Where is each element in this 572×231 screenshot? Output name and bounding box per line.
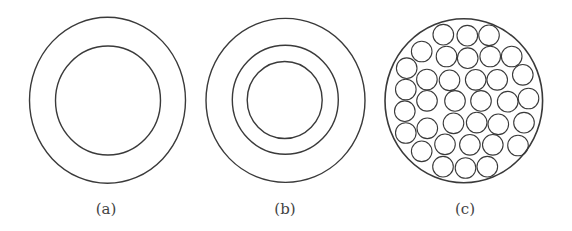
small-circle	[436, 46, 457, 67]
small-circle	[460, 135, 481, 156]
small-circle	[514, 112, 535, 133]
small-circle	[435, 134, 456, 155]
panel-a-concentric-two	[30, 17, 186, 183]
small-circle	[396, 58, 417, 79]
small-circle	[455, 158, 476, 179]
small-circle	[411, 141, 432, 162]
panel-b-concentric-three	[206, 18, 365, 182]
panel-label-c: (c)	[445, 199, 485, 219]
figure-canvas	[0, 0, 572, 231]
small-circle	[433, 156, 454, 177]
ring-1	[206, 18, 365, 182]
small-circle	[443, 113, 464, 134]
small-circle	[466, 112, 487, 133]
small-circle	[483, 135, 504, 156]
small-circle	[501, 46, 522, 67]
small-circle	[513, 65, 534, 86]
small-circle	[471, 91, 492, 112]
small-circle	[497, 91, 518, 112]
panel-label-a: (a)	[86, 199, 126, 219]
small-circle	[417, 91, 438, 112]
small-circle	[479, 25, 500, 46]
small-circle	[433, 24, 454, 45]
small-circle	[445, 91, 466, 112]
small-circle	[457, 25, 478, 46]
small-circle	[417, 69, 438, 90]
small-circle	[396, 123, 417, 144]
ring-3	[247, 62, 322, 139]
small-circle	[457, 48, 478, 69]
small-circle	[417, 118, 438, 139]
small-circle	[396, 79, 417, 100]
ring-2	[56, 46, 161, 155]
small-circle	[488, 114, 509, 135]
small-circle	[439, 70, 460, 91]
panel-label-b: (b)	[265, 199, 305, 219]
small-circle	[518, 88, 539, 109]
panel-c-packed-circles	[385, 19, 543, 183]
small-circle	[508, 135, 529, 156]
small-circle	[411, 41, 432, 62]
ring-1	[30, 17, 186, 183]
small-circle	[465, 70, 486, 91]
small-circle	[477, 156, 498, 177]
small-circle	[395, 101, 416, 122]
small-circle	[487, 70, 508, 91]
small-circle	[480, 46, 501, 67]
